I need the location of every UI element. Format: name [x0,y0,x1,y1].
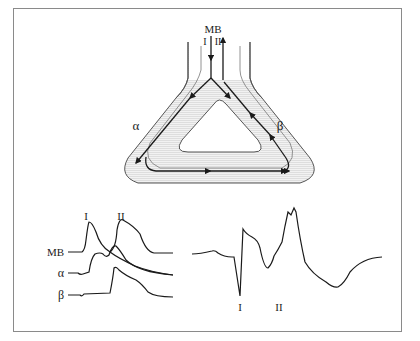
left-limb-label: α [133,118,140,133]
trace-mb [68,222,173,275]
right-trace [192,208,382,296]
left-peak-label-2: II [117,210,125,222]
left-traces [68,220,173,297]
trace-label-mb: MB [47,246,64,258]
inlet-path-label-1: I [203,36,206,47]
inlet-path-label-2: II [215,36,222,47]
inlet-label: MB [204,23,221,35]
trace-mb-II [110,220,173,253]
right-limb-label: β [277,118,284,133]
trace-beta [68,267,173,297]
diagram-canvas: MB I II α β I II MB α β I II [0,0,420,341]
right-deflection-label-1: I [238,301,242,313]
trace-label-beta: β [58,288,64,302]
right-deflection-label-2: II [275,301,283,313]
trace-label-alpha: α [58,266,65,280]
ring-diagram: MB I II α β [125,23,315,183]
left-peak-label-1: I [84,210,88,222]
